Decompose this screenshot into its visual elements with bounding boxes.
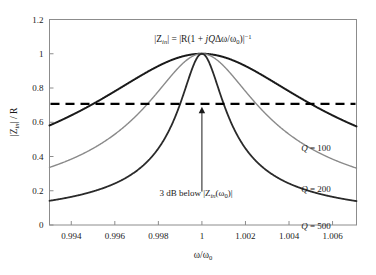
y-axis-ticks: 00.20.40.60.811.2 [32,15,53,231]
x-tick-label: 0.996 [105,231,126,241]
x-tick-label: 1.004 [279,231,300,241]
annotation-arrow-head [199,107,205,114]
y-tick-label: 0.6 [32,117,44,127]
annotation-arrow [199,107,205,192]
y-tick-label: 0.8 [32,83,44,93]
series-label-q100: Q = 100 [301,143,331,153]
equation-annotation: |Zin| = |R(1 + jQΔω/ω0)|−1 [154,33,251,46]
x-tick-label: 0.998 [148,231,169,241]
y-tick-label: 0 [39,220,44,230]
y-tick-label: 0.2 [32,186,43,196]
y-tick-label: 1 [39,49,44,59]
x-tick-label: 1 [200,231,205,241]
x-tick-label: 0.994 [61,231,82,241]
chart-figure: 00.20.40.60.811.2 0.9940.9960.99811.0021… [0,0,376,275]
y-axis-title: |Zin| / R [9,107,20,136]
y-tick-label: 1.2 [32,15,43,25]
y-tick-label: 0.4 [32,152,44,162]
curve-q100 [50,54,357,127]
resonator-impedance-chart: 00.20.40.60.811.2 0.9940.9960.99811.0021… [0,0,376,275]
x-axis-title: ω/ω0 [194,250,213,261]
series-label-q200: Q = 200 [301,184,331,194]
x-tick-label: 1.002 [235,231,255,241]
series-label-q500: Q = 500 [301,221,331,231]
data-curves [50,54,357,201]
x-tick-label: 1.006 [322,231,343,241]
three-db-annotation-text: 3 dB below |Zin(ω0)| [159,188,232,199]
curve-q500 [50,54,357,201]
